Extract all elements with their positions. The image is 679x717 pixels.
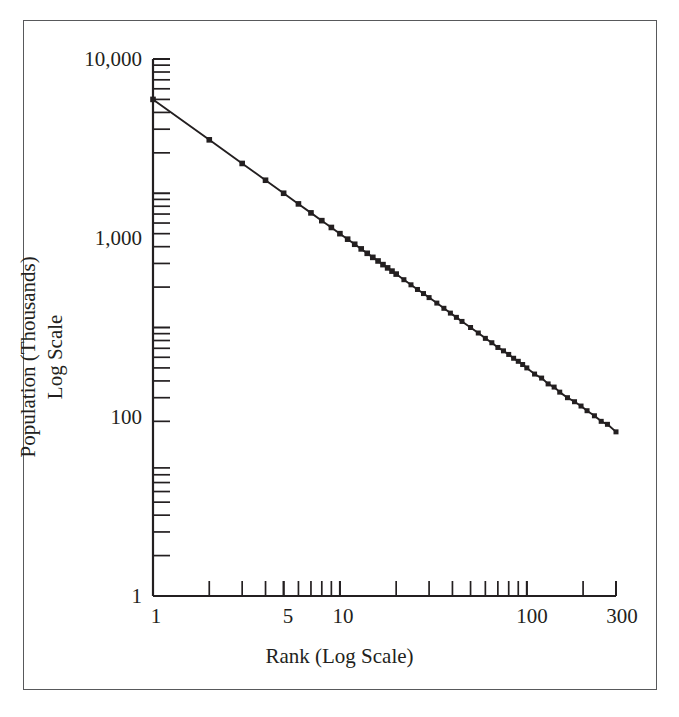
data-point-marker [415,287,420,292]
data-point-marker [524,365,529,370]
y-axis-title: Population (Thousands) Log Scale [15,207,69,507]
y-axis-title-line-2: Log Scale [42,207,69,507]
data-point-marker [476,331,481,336]
data-point-marker [421,291,426,296]
data-point-marker [408,282,413,287]
data-point-marker [448,311,453,316]
data-point-marker [489,340,494,345]
x-tick-label-1: 1 [151,604,162,629]
x-axis-ticks [153,581,616,596]
data-point-marker [393,271,399,277]
axis-lines [153,59,616,596]
data-point-marker [511,356,516,361]
data-point-marker [592,413,597,418]
data-point-marker [337,231,343,237]
y-tick-label-10000: 10,000 [20,47,142,72]
data-point-marker [370,255,376,261]
y-axis-ticks [153,59,170,596]
data-point-marker [506,352,511,357]
data-point-marker [614,429,619,434]
data-point-marker [605,422,610,427]
data-point-marker [539,376,544,381]
data-point-marker [501,348,506,353]
data-point-marker [572,399,577,404]
data-point-marker [263,177,269,183]
data-point-marker [308,210,314,216]
data-point-marker [552,385,557,390]
data-point-marker [565,395,570,400]
data-point-marker [281,190,287,196]
data-point-marker [546,381,551,386]
data-point-marker [352,241,358,247]
data-point-marker [468,325,473,330]
data-point-marker [434,301,439,306]
data-point-marker [329,225,335,231]
data-point-marker [495,345,500,350]
data-point-marker [375,258,381,264]
y-tick-label-1: 1 [20,584,142,609]
data-point-marker [296,201,302,207]
data-point-marker [585,408,590,413]
data-point-marker [427,295,432,300]
x-tick-label-5: 5 [283,604,294,629]
x-tick-label-100: 100 [516,604,548,629]
data-point-marker [364,251,370,257]
data-point-marker [239,161,245,167]
data-point-marker [401,277,406,282]
data-point-marker [345,236,351,242]
x-tick-label-300: 300 [606,604,638,629]
data-point-marker [454,315,459,320]
data-point-marker [441,306,446,311]
x-tick-label-10: 10 [333,604,354,629]
data-point-marker [483,336,488,341]
data-point-marker [206,137,212,143]
data-point-marker [532,372,537,377]
data-point-marker [579,404,584,409]
data-point-marker [319,218,325,224]
data-point-marker [557,390,562,395]
data-point-marker [516,359,521,364]
data-point-marker [460,319,465,324]
data-point-marker [150,97,156,103]
x-axis-title: Rank (Log Scale) [0,644,679,669]
data-point-marker [358,246,364,252]
data-point-marker [599,419,604,424]
y-axis-title-line-1: Population (Thousands) [15,207,42,507]
figure-root: 10,000 1,000 100 1 1 5 10 100 300 Rank (… [0,0,679,717]
